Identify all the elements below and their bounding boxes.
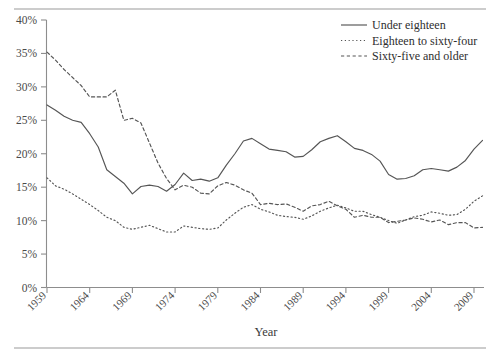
- series-line-sixty-five-and-older: [47, 52, 483, 228]
- x-tick-label: 1969: [110, 289, 134, 313]
- x-tick-label: 1964: [67, 289, 91, 313]
- legend-item: Sixty-five and older: [341, 49, 468, 63]
- series-line-eighteen-to-sixty-four: [47, 178, 483, 232]
- chart-figure: 0%5%10%15%20%25%30%35%40% 19591964196919…: [0, 0, 499, 355]
- y-tick-label: 10%: [16, 215, 38, 227]
- x-tick-label: 1989: [281, 289, 305, 313]
- x-tick-label: 1979: [195, 289, 219, 313]
- population-poverty-line-chart: 0%5%10%15%20%25%30%35%40% 19591964196919…: [0, 0, 499, 355]
- y-tick-label: 15%: [16, 181, 38, 193]
- legend-label: Eighteen to sixty-four: [372, 34, 477, 48]
- x-tick-label: 1984: [238, 289, 262, 313]
- legend-item: Eighteen to sixty-four: [341, 34, 477, 48]
- y-tick-label: 20%: [16, 148, 38, 160]
- y-tick-label: 0%: [22, 282, 38, 294]
- series-group: [47, 52, 483, 232]
- x-axis-title: Year: [254, 325, 278, 339]
- series-line-under-eighteen: [47, 105, 483, 194]
- y-tick-label: 35%: [16, 47, 38, 59]
- x-tick-group: 1959196419691974197919841989199419992004…: [24, 288, 475, 313]
- legend: Under eighteenEighteen to sixty-fourSixt…: [341, 18, 477, 63]
- legend-item: Under eighteen: [341, 18, 446, 32]
- x-tick-label: 2009: [451, 289, 475, 313]
- x-tick-label: 1994: [323, 289, 347, 313]
- x-tick-label: 2004: [409, 289, 433, 313]
- legend-label: Under eighteen: [372, 18, 446, 32]
- y-tick-label: 25%: [16, 114, 38, 126]
- y-tick-group: 0%5%10%15%20%25%30%35%40%: [16, 14, 47, 294]
- x-tick-label: 1974: [152, 289, 176, 313]
- x-tick-label: 1999: [366, 289, 390, 313]
- y-tick-label: 5%: [22, 248, 38, 260]
- y-tick-label: 40%: [16, 14, 38, 26]
- y-tick-label: 30%: [16, 81, 38, 93]
- legend-label: Sixty-five and older: [372, 49, 468, 63]
